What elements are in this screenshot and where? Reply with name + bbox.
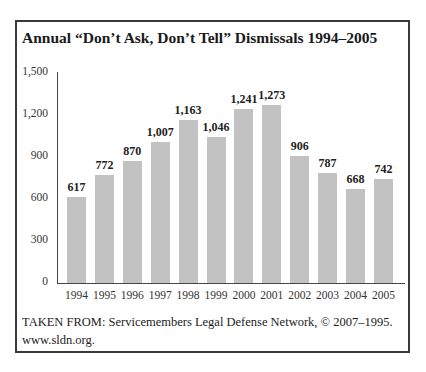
bar-1998 — [179, 120, 198, 283]
x-axis — [57, 283, 405, 284]
x-tick-label: 1999 — [201, 289, 231, 301]
x-tick-label: 1996 — [117, 289, 147, 301]
x-tick-label: 2003 — [313, 289, 343, 301]
bar-value-label: 787 — [308, 156, 348, 171]
y-axis — [57, 72, 58, 284]
x-tick-label: 1998 — [173, 289, 203, 301]
bar-1994 — [67, 197, 86, 283]
source-url: www.sldn.org. — [22, 331, 407, 349]
x-tick-label: 1997 — [145, 289, 175, 301]
bar-value-label: 1,273 — [252, 88, 292, 103]
x-tick-label: 2005 — [368, 289, 398, 301]
bar-2005 — [374, 179, 393, 283]
bar-value-label: 617 — [57, 180, 97, 195]
bar-value-label: 1,007 — [140, 125, 180, 140]
y-tick-label: 600 — [8, 191, 48, 203]
bar-value-label: 1,046 — [196, 120, 236, 135]
bar-1995 — [95, 175, 114, 283]
y-tick-label: 0 — [8, 275, 48, 287]
y-tick-label: 1,200 — [8, 107, 48, 119]
bar-1997 — [151, 142, 170, 283]
bar-value-label: 1,163 — [168, 103, 208, 118]
bar-2002 — [290, 156, 309, 283]
x-tick-label: 2002 — [285, 289, 315, 301]
y-tick-label: 300 — [8, 233, 48, 245]
x-tick-label: 2004 — [341, 289, 371, 301]
bar-1996 — [123, 161, 142, 283]
y-tick-label: 1,500 — [8, 65, 48, 77]
x-tick-label: 2001 — [257, 289, 287, 301]
bar-2003 — [318, 173, 337, 283]
bar-2001 — [262, 105, 281, 283]
bar-value-label: 870 — [112, 144, 152, 159]
x-tick-label: 1995 — [89, 289, 119, 301]
bar-value-label: 906 — [280, 139, 320, 154]
bar-1999 — [207, 137, 226, 283]
bar-value-label: 742 — [363, 162, 403, 177]
y-tick-label: 900 — [8, 149, 48, 161]
bar-value-label: 772 — [84, 158, 124, 173]
bar-2000 — [234, 109, 253, 283]
x-tick-label: 1994 — [62, 289, 92, 301]
source-line-1: TAKEN FROM: Servicemembers Legal Defense… — [22, 313, 407, 331]
bar-2004 — [346, 189, 365, 283]
x-tick-label: 2000 — [229, 289, 259, 301]
source-note: TAKEN FROM: Servicemembers Legal Defense… — [22, 313, 407, 349]
